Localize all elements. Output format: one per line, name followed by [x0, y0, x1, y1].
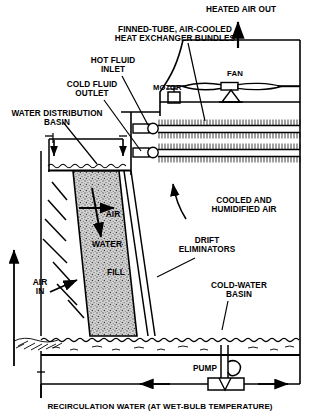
label-heat-exchanger-bundles: FINNED-TUBE, AIR-COOLED HEAT EXCHANGER B… — [108, 26, 242, 44]
diagram-canvas: HEATED AIR OUT FINNED-TUBE, AIR-COOLED H… — [0, 0, 310, 419]
label-water-distribution-basin: WATER DISTRIBUTION BASIN — [4, 110, 110, 128]
label-water: WATER — [83, 240, 131, 249]
finned-tube-bundle-upper — [133, 120, 300, 139]
label-recirculation-water: RECIRCULATION WATER (AT WET-BULB TEMPERA… — [35, 403, 285, 412]
label-cold-fluid-outlet: COLD FLUID OUTLET — [58, 81, 126, 99]
cold-water-basin — [41, 338, 300, 355]
label-heated-air-out: HEATED AIR OUT — [186, 6, 296, 15]
label-fan: FAN — [222, 70, 248, 78]
label-motor: MOTOR — [153, 84, 187, 92]
label-hot-fluid-inlet: HOT FLUID INLET — [80, 57, 146, 75]
label-drift-eliminators: DRIFT ELIMINATORS — [168, 237, 246, 255]
label-cooled-humidified-air: COOLED AND HUMIDIFIED AIR — [198, 197, 290, 215]
label-air: AIR — [99, 210, 127, 219]
ground-hatch — [14, 338, 62, 350]
recirculation-main — [37, 355, 300, 398]
distribution-basin-water-surface — [48, 164, 131, 170]
label-air-in: AIR IN — [25, 278, 55, 296]
label-cold-water-basin: COLD-WATER BASIN — [199, 282, 279, 300]
label-pump: PUMP — [186, 365, 224, 374]
cooled-humidified-air-arrow — [173, 184, 186, 219]
label-fill: FILL — [100, 268, 132, 277]
finned-tube-bundle-lower — [133, 144, 300, 163]
